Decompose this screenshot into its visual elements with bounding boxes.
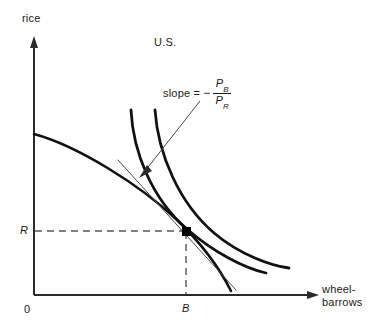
wheelbarrow-tick-label: B <box>182 302 190 315</box>
economics-figure: rice wheel- barrows U.S. 0 R B slope = −… <box>0 0 372 329</box>
x-axis-label-line1: wheel- <box>322 283 363 296</box>
slope-fraction-denominator: PR <box>213 94 231 109</box>
production-possibility-frontier-curve <box>34 134 231 291</box>
slope-annotation: slope = − PB PR <box>163 78 231 109</box>
indifference-curve-upper <box>155 110 289 268</box>
slope-annotation-minus-sign: − <box>203 87 210 101</box>
guide-lines-group <box>35 231 186 294</box>
equilibrium-point-marker <box>182 227 191 236</box>
slope-annotation-text: slope = <box>163 87 200 100</box>
figure-canvas <box>0 0 372 329</box>
slope-leader-line <box>145 101 200 171</box>
x-axis-label: wheel- barrows <box>322 283 363 308</box>
y-axis-arrowhead <box>30 36 38 48</box>
price-line-tangent <box>118 160 236 290</box>
slope-fraction: PB PR <box>213 78 231 109</box>
slope-leader-arrowhead <box>139 165 152 178</box>
figure-title: U.S. <box>154 36 176 49</box>
rice-tick-label: R <box>20 224 28 237</box>
y-axis-label: rice <box>22 12 41 25</box>
origin-label: 0 <box>24 303 30 316</box>
numerator-subscript: B <box>223 85 229 94</box>
axes-group <box>30 36 319 299</box>
x-axis-arrowhead <box>307 291 319 299</box>
slope-fraction-numerator: PB <box>214 78 231 93</box>
x-axis-label-line2: barrows <box>322 296 363 309</box>
denominator-symbol: P <box>215 94 223 106</box>
denominator-subscript: R <box>223 102 229 111</box>
